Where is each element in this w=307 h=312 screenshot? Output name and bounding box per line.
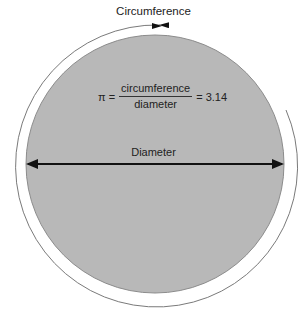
circumference-label: Circumference — [0, 5, 307, 17]
formula-denominator: diameter — [132, 97, 179, 111]
formula-rhs: = 3.14 — [196, 91, 227, 103]
diameter-label: Diameter — [0, 146, 307, 158]
formula-fraction: circumference diameter — [119, 82, 192, 111]
formula-numerator: circumference — [119, 82, 192, 97]
formula-lhs: π = — [98, 91, 115, 103]
pi-formula: π = circumference diameter = 3.14 — [98, 82, 227, 111]
arc-arrowhead-icon — [152, 23, 162, 29]
